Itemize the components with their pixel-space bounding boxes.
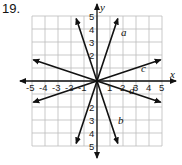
x-tick-label: -1 <box>78 82 86 93</box>
line-label-a: a <box>121 26 127 38</box>
y-tick-label: 2 <box>89 102 94 113</box>
y-tick-label: 5 <box>89 11 94 22</box>
x-axis-label: x <box>169 68 175 80</box>
y-tick-label: 3 <box>89 37 94 48</box>
x-tick-label: -4 <box>39 82 47 93</box>
line-label-b: b <box>118 114 124 126</box>
x-tick-label: -5 <box>26 82 34 93</box>
line-d <box>33 60 97 81</box>
y-axis-label: y <box>99 1 105 13</box>
y-tick-label: 4 <box>89 128 94 139</box>
x-tick-label: -2 <box>65 82 73 93</box>
x-tick-label: -3 <box>52 82 60 93</box>
coordinate-graph: -5-4-3-2-11234554322345 abcdxy <box>0 0 182 165</box>
x-tick-label: 1 <box>107 82 112 93</box>
x-tick-label: 5 <box>159 82 164 93</box>
line-label-c: c <box>141 62 146 74</box>
y-tick-label: 2 <box>89 50 94 61</box>
y-tick-label: 3 <box>89 115 94 126</box>
x-tick-label: 4 <box>146 82 151 93</box>
line-c <box>97 60 161 81</box>
line-label-d: d <box>129 84 135 96</box>
line-a <box>97 19 118 81</box>
x-tick-label: 2 <box>120 82 125 93</box>
y-tick-label: 5 <box>89 141 94 152</box>
y-tick-label: 4 <box>89 24 94 35</box>
